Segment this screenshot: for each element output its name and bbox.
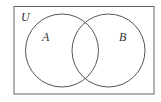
set-b-circle [72,14,145,87]
set-b-label: B [119,30,127,44]
set-a-circle [26,14,99,87]
universe-label: U [21,10,31,24]
venn-diagram: U A B [0,0,161,102]
set-a-label: A [41,30,50,44]
universe-rectangle [14,7,154,95]
